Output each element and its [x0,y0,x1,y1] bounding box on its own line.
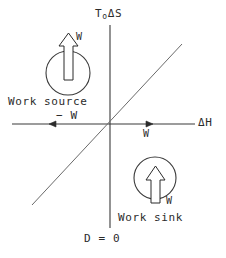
work-sink-arrow-label: W [166,196,173,206]
negative-work-arrowhead-icon [49,121,56,127]
positive-work-arrowhead-icon [146,121,153,127]
positive-work-label: W [143,129,150,139]
diagram-canvas [0,0,226,258]
work-source-caption: Work source [8,96,87,107]
work-sink-caption: Work sink [118,212,183,223]
y-axis-label: ToΔS [95,8,122,21]
x-axis-label: ΔH [198,117,212,128]
dissipation-zero-label: D = 0 [84,233,120,244]
negative-work-label: − W [56,110,78,121]
y-axis-label-tail: ΔS [108,7,122,20]
thermodynamic-quadrant-diagram: ToΔS ΔH Work source − W W W W Work sink … [0,0,226,258]
work-source-arrow-label: W [76,32,83,42]
